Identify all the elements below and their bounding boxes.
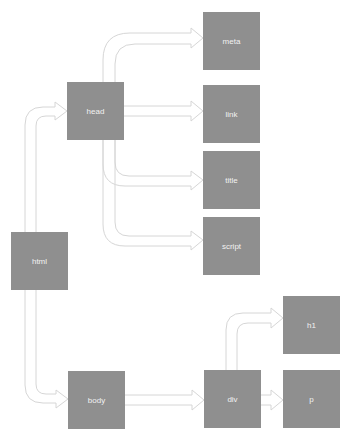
dom-tree-diagram: html head body meta link title script di… [0, 0, 352, 442]
node-label: body [88, 396, 105, 405]
arrow-head-link [124, 101, 203, 121]
node-div: div [204, 370, 261, 428]
node-label: div [227, 395, 237, 404]
arrow-div-p [261, 390, 283, 410]
node-head: head [67, 82, 124, 140]
node-label: head [87, 107, 105, 116]
node-body: body [68, 371, 125, 429]
node-label: html [32, 257, 47, 266]
arrow-head-meta [103, 28, 203, 82]
node-label: title [225, 176, 237, 185]
node-label: script [222, 242, 241, 251]
arrow-body-div [124, 390, 204, 410]
arrow-head-script [103, 140, 203, 250]
node-script: script [203, 217, 260, 275]
arrow-head-title [103, 140, 203, 190]
node-link: link [203, 85, 260, 143]
node-title: title [203, 151, 260, 209]
node-label: p [309, 395, 313, 404]
arrow-div-h1 [226, 308, 283, 370]
node-p: p [283, 370, 340, 428]
node-label: link [225, 110, 237, 119]
node-label: meta [223, 37, 241, 46]
arrow-html-body [25, 290, 68, 408]
node-label: h1 [307, 321, 316, 330]
node-h1: h1 [283, 296, 340, 354]
node-html: html [11, 232, 68, 290]
node-meta: meta [203, 12, 260, 70]
arrow-html-head [25, 102, 67, 232]
